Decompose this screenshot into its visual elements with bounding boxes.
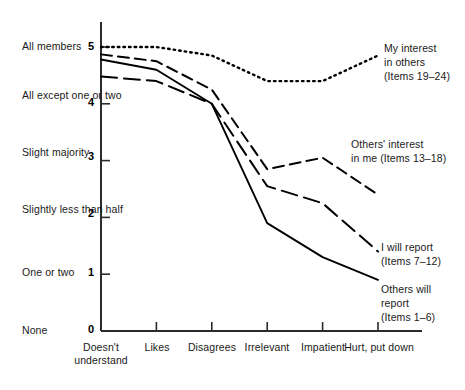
- y-tick-3: 3: [80, 150, 94, 162]
- y-tick-4: 4: [80, 96, 94, 108]
- x-axis-ticks: [156, 322, 378, 331]
- series-line-solid: [101, 60, 378, 280]
- y-label-one-or-two: One or two: [22, 266, 74, 279]
- y-label-all-members: All members: [22, 40, 81, 53]
- y-tick-2: 2: [80, 207, 94, 219]
- line-chart: All members All except one or two Slight…: [0, 0, 465, 390]
- y-label-slightly-less-than-half: Slightly less than half: [22, 203, 123, 216]
- x-label-hurt-put-down: Hurt, put down: [333, 341, 425, 354]
- y-tick-1: 1: [80, 266, 94, 278]
- y-label-all-except-one-or-two: All except one or two: [22, 89, 122, 102]
- series-label-others-will-report: Others will report (Items 1–6): [381, 282, 435, 324]
- series-line-dotted: [101, 47, 378, 81]
- series-label-others-interest-in-me: Others' interest in me (Items 13–18): [351, 137, 446, 165]
- series-paths: [101, 47, 378, 280]
- series-label-i-will-report: I will report (Items 7–12): [381, 240, 441, 268]
- y-label-none: None: [22, 324, 48, 337]
- y-tick-0: 0: [80, 323, 94, 335]
- y-axis-ticks: [101, 47, 110, 274]
- y-tick-5: 5: [80, 40, 94, 52]
- series-label-my-interest-in-others: My interest in others (Items 19–24): [384, 41, 450, 83]
